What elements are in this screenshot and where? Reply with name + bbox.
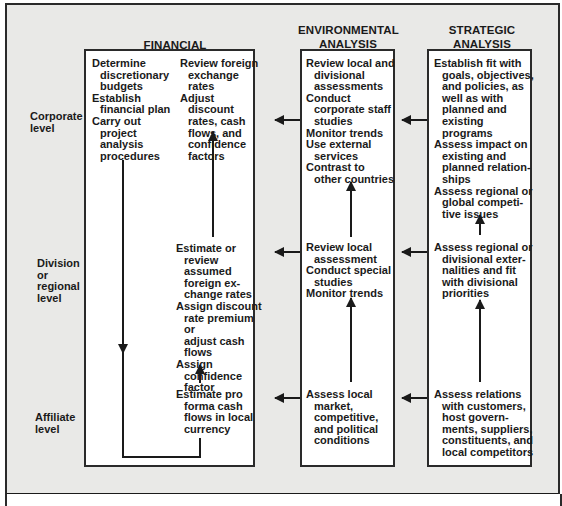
- financial-down-loop-arrow: [123, 160, 200, 457]
